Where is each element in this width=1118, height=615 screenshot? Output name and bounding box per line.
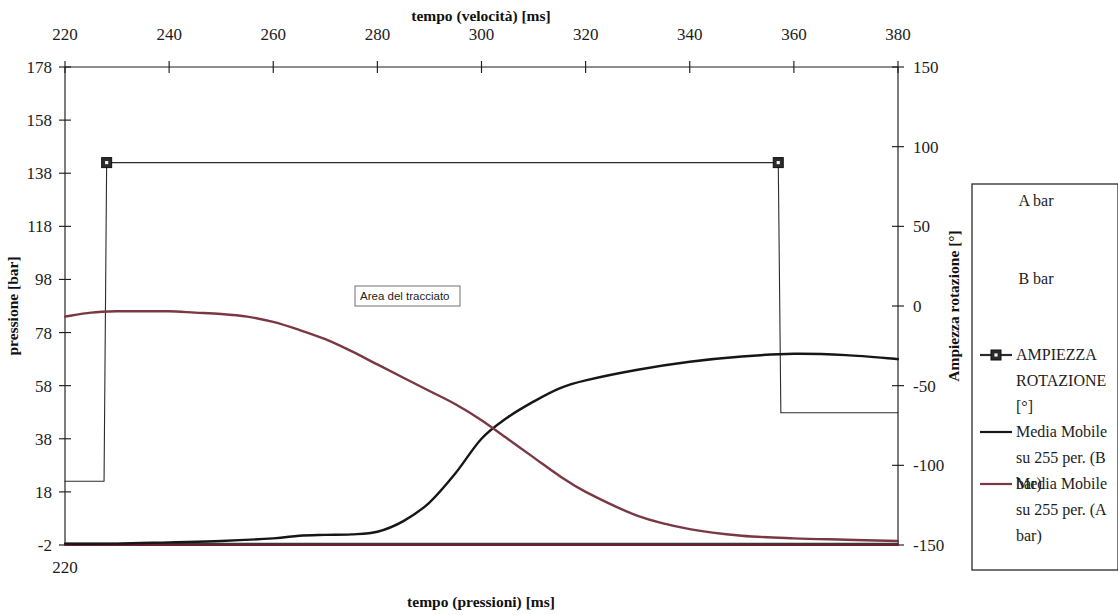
plot-area-annotation-label: Area del tracciato (360, 290, 450, 302)
legend-item-label: [°] (1016, 398, 1033, 415)
legend-item-label: Media Mobile (1016, 423, 1107, 440)
legend-item-label: AMPIEZZA (1016, 346, 1097, 363)
legend-item-label: Media Mobile (1016, 475, 1107, 492)
legend-item-label: bar) (1016, 527, 1042, 545)
top-axis-tick-label: 300 (469, 25, 495, 44)
right-axis-tick-label: -100 (913, 456, 944, 475)
right-axis-tick-label: -150 (913, 536, 944, 555)
series-marker-center (105, 161, 108, 164)
top-axis-tick-label: 380 (885, 25, 911, 44)
top-axis-tick-label: 240 (156, 25, 182, 44)
left-axis-title: pressione [bar] (4, 256, 21, 355)
legend-item-label: su 255 per. (B (1016, 449, 1106, 467)
series-marker-center (777, 161, 780, 164)
top-axis-tick-label: 320 (573, 25, 599, 44)
legend-square-marker-center (994, 353, 997, 356)
plot-area-annotation[interactable]: Area del tracciato (355, 286, 460, 306)
legend: A barB barAMPIEZZAROTAZIONE[°]Media Mobi… (972, 184, 1118, 570)
right-axis-tick-label: 100 (913, 138, 939, 157)
chart-container: 220240260280300320340360380 tempo (veloc… (0, 0, 1118, 615)
bottom-axis-tick-label: 220 (52, 558, 78, 577)
legend-item-label: su 255 per. (A (1016, 501, 1107, 519)
bottom-axis-tick-labels: 220 (52, 558, 78, 577)
top-axis-tick-label: 360 (781, 25, 807, 44)
left-axis-tick-label: 98 (35, 270, 52, 289)
right-axis-tick-label: -50 (913, 377, 936, 396)
right-axis-tick-label: 0 (913, 297, 922, 316)
top-axis-tick-label: 280 (365, 25, 391, 44)
top-axis-tick-labels: 220240260280300320340360380 (52, 25, 911, 44)
left-axis-tick-label: -2 (38, 536, 52, 555)
top-axis-title: tempo (velocità) [ms] (411, 7, 550, 25)
legend-item-label: ROTAZIONE (1016, 372, 1106, 389)
right-axis-title: Ampiezza rotazione [°] (945, 230, 962, 381)
legend-item-1[interactable]: A bar (1018, 192, 1054, 209)
left-axis-tick-label: 158 (27, 111, 53, 130)
left-axis-tick-label: 118 (27, 217, 52, 236)
top-axis-tick-label: 340 (677, 25, 703, 44)
right-axis-tick-label: 150 (913, 58, 939, 77)
left-axis-tick-label: 38 (35, 430, 52, 449)
left-axis-tick-label: 138 (27, 164, 53, 183)
right-axis-tick-label: 50 (913, 217, 930, 236)
left-axis-tick-label: 18 (35, 483, 52, 502)
legend-item-label: B bar (1018, 270, 1054, 287)
legend-item-label: A bar (1018, 192, 1054, 209)
legend-item-2[interactable]: B bar (1018, 270, 1054, 287)
top-axis-tick-label: 220 (52, 25, 78, 44)
left-axis-tick-label: 78 (35, 324, 52, 343)
top-axis-tick-label: 260 (261, 25, 287, 44)
bottom-axis-title: tempo (pressioni) [ms] (407, 593, 555, 611)
left-axis-tick-label: 58 (35, 377, 52, 396)
left-axis-tick-label: 178 (27, 58, 53, 77)
